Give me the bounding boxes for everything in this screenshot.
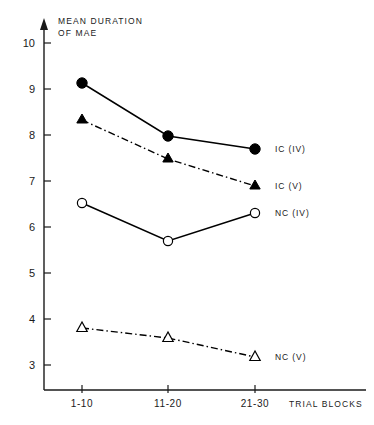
x-tick-label: 1-10: [71, 398, 93, 409]
data-point-marker: [163, 332, 173, 342]
y-tick-label: 7: [29, 175, 35, 187]
series-line-nc-iv: [82, 203, 255, 241]
series-nc-iv: [77, 198, 259, 245]
data-point-marker: [250, 180, 260, 189]
legend-item-nc-v: NC (V): [275, 352, 306, 362]
y-tick-label: 10: [23, 37, 35, 49]
series-ic-iv: [77, 78, 260, 154]
y-tick-labels: 10 9 8 7 6 5 4 3: [23, 37, 35, 371]
y-tick-label: 6: [29, 221, 35, 233]
chart-figure: 10 9 8 7 6 5 4 3 1-10 11-20 21-30 MEAN D…: [0, 0, 374, 425]
legend-item-ic-iv: IC (IV): [275, 144, 306, 154]
data-point-marker: [163, 236, 172, 245]
data-point-marker: [77, 322, 87, 332]
data-point-marker: [250, 351, 260, 361]
x-tick-label: 11-20: [154, 398, 182, 409]
legend-item-ic-v: IC (V): [275, 181, 303, 191]
chart-canvas: 10 9 8 7 6 5 4 3 1-10 11-20 21-30 MEAN D…: [0, 0, 374, 425]
y-axis-arrow-icon: [40, 18, 48, 30]
x-tick-marks: [82, 385, 255, 393]
y-axis-title-line1: MEAN DURATION: [58, 16, 143, 26]
y-tick-label: 8: [29, 129, 35, 141]
y-tick-label: 5: [29, 267, 35, 279]
data-point-marker: [77, 198, 86, 207]
y-tick-marks: [44, 43, 51, 365]
data-point-marker: [250, 144, 260, 154]
data-point-marker: [250, 208, 259, 217]
series-nc-v: [77, 322, 260, 361]
y-axis-title-line2: OF MAE: [58, 28, 97, 38]
y-axis: [40, 18, 48, 390]
x-tick-labels: 1-10 11-20 21-30: [71, 398, 270, 409]
data-point-marker: [163, 131, 173, 141]
y-tick-label: 9: [29, 83, 35, 95]
y-tick-label: 3: [29, 359, 35, 371]
x-tick-label: 21-30: [241, 398, 270, 409]
series-ic-v: [77, 114, 260, 189]
legend-item-nc-iv: NC (IV): [275, 208, 310, 218]
x-axis-title: TRIAL BLOCKS: [289, 399, 363, 409]
data-point-marker: [77, 114, 87, 123]
y-tick-label: 4: [29, 313, 35, 325]
legend: IC (IV) IC (V) NC (IV) NC (V): [275, 144, 310, 362]
data-point-marker: [77, 78, 87, 88]
